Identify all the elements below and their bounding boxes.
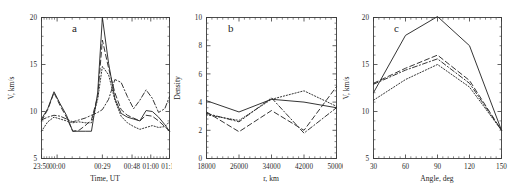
panel-a-xtick-label: 01:00 — [143, 163, 160, 171]
panel-c-xaxis-title: Angle, deg — [420, 174, 454, 183]
panel-b-curves — [207, 87, 337, 134]
panel-a-ytick-label: 10 — [30, 108, 38, 116]
panel-c-letter: c — [394, 22, 399, 34]
panel-b-xtick-label: 42000 — [295, 163, 313, 171]
panel-a-curves — [42, 18, 170, 132]
panel-a-xaxis-title: Time, UT — [90, 174, 120, 183]
panel-b-xtick-label: 34000 — [263, 163, 281, 171]
panel-a-xtick-label: 00:00 — [49, 163, 66, 171]
panel-b-xaxis-title: r, km — [263, 174, 279, 183]
panel-c-ytick-labels: 5101520 — [362, 14, 370, 163]
panel-a-curve-2-dashed — [42, 40, 170, 131]
panel-b-ytick-label: 8 — [198, 42, 202, 50]
panel-a-ytick-label: 20 — [30, 14, 38, 22]
panel-c-xtick-label: 30 — [370, 163, 378, 171]
panel-c-ytick-label: 5 — [365, 155, 369, 163]
panel-c-ytick-label: 15 — [362, 61, 370, 69]
panel-c-yaxis-title: V, km/s — [342, 76, 351, 99]
panel-c-plot: 5101520 306090120150 c Angle, deg V, km/… — [338, 0, 513, 190]
panel-a-xtick-label: 00:29 — [94, 163, 111, 171]
three-panel-figure: 5101520 23:5000:0000:2900:4801:0001:12 a… — [0, 0, 513, 190]
panel-b-ytick-label: 4 — [198, 99, 202, 107]
panel-a-ytick-label: 15 — [30, 61, 38, 69]
panel-c-curve-2-dashed — [374, 55, 502, 130]
panel-a-ytick-label: 5 — [33, 155, 37, 163]
panel-c-axes — [374, 18, 502, 159]
panel-c-xtick-label: 90 — [434, 163, 442, 171]
panel-a-curve-3-dotted — [42, 66, 170, 131]
panel-b-curve-3-dotted — [207, 91, 337, 121]
panel-c-curve-1-solid — [374, 17, 502, 131]
panel-c-xtick-label: 120 — [464, 163, 475, 171]
panel-c-velocity-angle: 5101520 306090120150 c Angle, deg V, km/… — [338, 0, 513, 190]
panel-b-ytick-labels: 0246810 — [195, 14, 203, 163]
panel-b-xtick-labels: 1800026000340004200050000 — [198, 163, 343, 171]
panel-c-ytick-label: 10 — [362, 108, 370, 116]
panel-b-ticks — [207, 18, 337, 159]
panel-b-letter: b — [228, 22, 234, 34]
panel-c-curves — [374, 17, 502, 131]
panel-c-xtick-label: 60 — [402, 163, 410, 171]
panel-b-curve-2-dashed — [207, 87, 337, 132]
panel-a-xtick-label: 23:50 — [33, 163, 50, 171]
panel-b-density-radius: 0246810 1800026000340004200050000 b r, k… — [167, 0, 343, 190]
panel-b-xtick-label: 18000 — [198, 163, 216, 171]
panel-b-ytick-label: 10 — [195, 14, 203, 22]
panel-c-ytick-label: 20 — [362, 14, 370, 22]
panel-a-ytick-labels: 5101520 — [30, 14, 38, 163]
panel-a-yaxis-title: V, km/s — [7, 76, 16, 99]
panel-a-xtick-labels: 23:5000:0000:2900:4801:0001:12 — [33, 163, 172, 171]
panel-a-plot: 5101520 23:5000:0000:2900:4801:0001:12 a… — [0, 0, 172, 190]
panel-c-xtick-label: 150 — [496, 163, 507, 171]
panel-a-curve-1-solid — [42, 18, 170, 132]
panel-a-xtick-label: 00:48 — [124, 163, 141, 171]
panel-b-xtick-label: 26000 — [230, 163, 248, 171]
panel-a-velocity-time: 5101520 23:5000:0000:2900:4801:0001:12 a… — [0, 0, 172, 190]
panel-a-letter: a — [72, 22, 77, 34]
panel-b-ytick-label: 6 — [198, 71, 202, 79]
panel-b-yaxis-title: Density — [173, 76, 182, 100]
panel-b-ytick-label: 2 — [198, 127, 202, 135]
panel-b-ytick-label: 0 — [198, 155, 202, 163]
panel-b-curve-1-solid — [207, 99, 337, 112]
panel-b-axes — [207, 18, 337, 159]
panel-b-curve-4-dashdot — [207, 98, 337, 133]
panel-b-plot: 0246810 1800026000340004200050000 b r, k… — [167, 0, 343, 190]
panel-c-ticks — [374, 18, 502, 159]
panel-c-curve-4-dashdot — [374, 59, 502, 130]
panel-c-xtick-labels: 306090120150 — [370, 163, 507, 171]
